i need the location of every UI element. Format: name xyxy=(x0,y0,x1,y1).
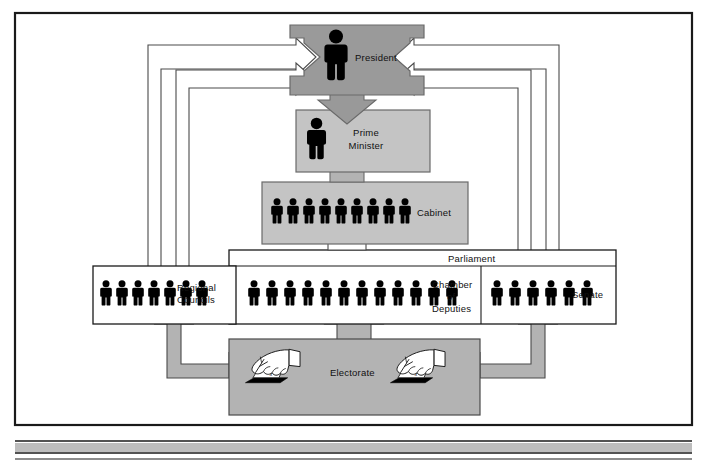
parliament-label: Parliament xyxy=(448,253,496,264)
chamber-of-deputies-label-line1: Chamber xyxy=(432,279,472,290)
bottom-gray-band xyxy=(15,443,692,452)
chamber-of-deputies-label-line2: of xyxy=(447,291,455,302)
electorate-label: Electorate xyxy=(330,367,375,378)
parliament-box[interactable] xyxy=(229,250,616,324)
regional-councils-label-line1: Regional xyxy=(177,282,216,293)
president-label: President xyxy=(355,52,397,63)
prime-minister-label-line1: Prime xyxy=(353,127,379,138)
cabinet-label: Cabinet xyxy=(417,207,451,218)
senate-label: Senate xyxy=(572,289,603,300)
prime-minister-label-line2: Minister xyxy=(349,140,384,151)
regional-councils-label-line2: Councils xyxy=(177,294,215,305)
diagram-canvas: x xyxy=(0,0,710,461)
chamber-of-deputies-label-line3: Deputies xyxy=(432,303,471,314)
government-structure-diagram: x xyxy=(0,0,710,461)
